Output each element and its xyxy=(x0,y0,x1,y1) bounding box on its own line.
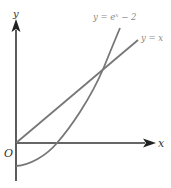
y-axis-label: y xyxy=(12,8,19,19)
line-label: y = x xyxy=(140,33,163,43)
graph: y x O y = ex − 2 y = x xyxy=(0,0,171,188)
curve-exponential xyxy=(16,28,120,166)
line-y-equals-x xyxy=(16,40,138,143)
curve-exponential-label: y = ex − 2 xyxy=(92,12,136,22)
x-axis-label: x xyxy=(158,137,165,150)
origin-label: O xyxy=(4,147,13,160)
